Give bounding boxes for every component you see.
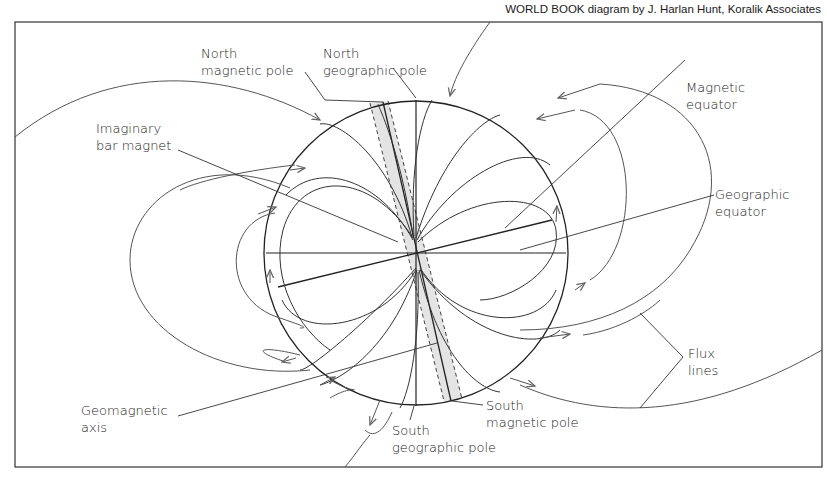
- label-flux-lines: Flux lines: [688, 345, 718, 379]
- label-north-magnetic-pole: North magnetic pole: [201, 45, 293, 79]
- earth-magnetic-field-diagram: WORLD BOOK diagram by J. Harlan Hunt, Ko…: [0, 0, 827, 477]
- label-magnetic-equator: Magnetic equator: [686, 79, 745, 113]
- label-imaginary-bar-magnet: Imaginary bar magnet: [96, 120, 171, 154]
- label-south-geographic-pole: South geographic pole: [392, 422, 496, 456]
- label-north-geographic-pole: North geographic pole: [323, 45, 427, 79]
- label-south-magnetic-pole: South magnetic pole: [486, 397, 578, 431]
- label-geographic-equator: Geographic equator: [715, 186, 789, 220]
- label-geomagnetic-axis: Geomagnetic axis: [81, 402, 168, 436]
